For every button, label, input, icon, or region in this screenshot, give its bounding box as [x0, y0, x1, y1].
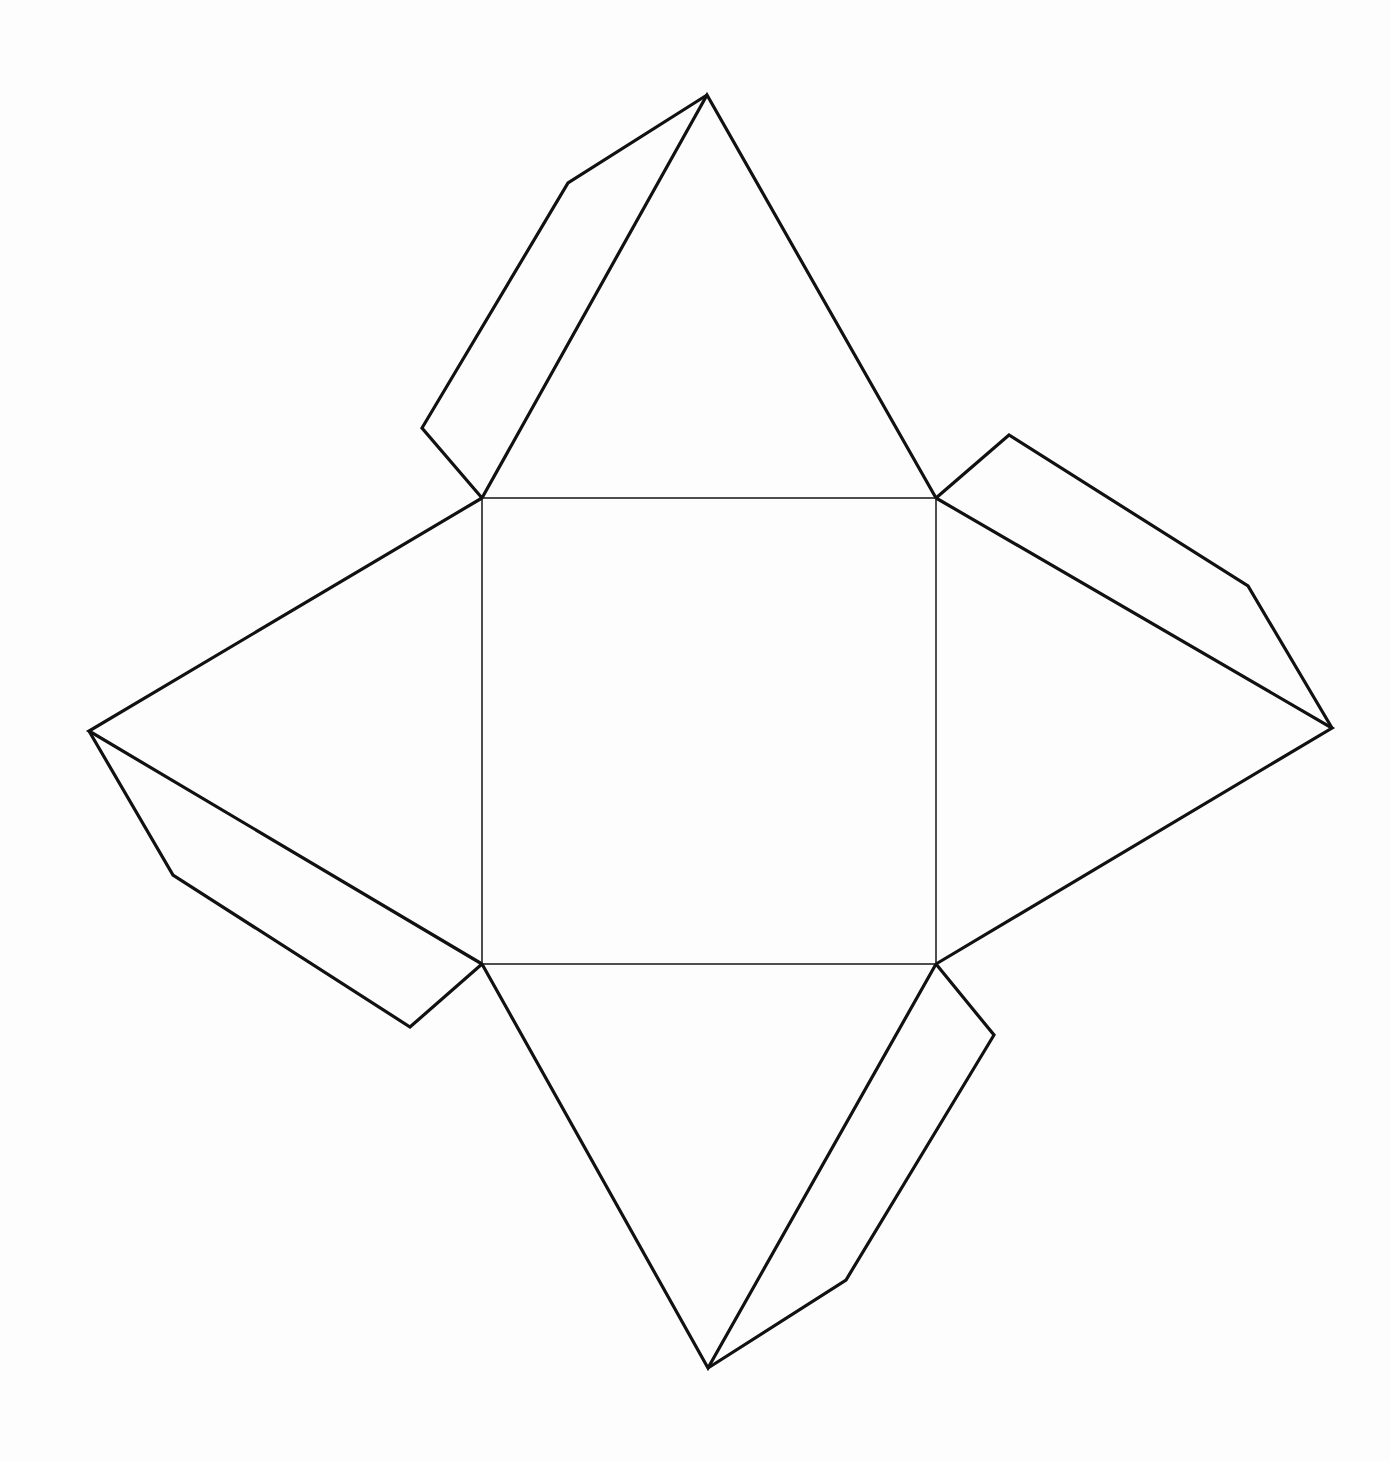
top-glue-tab: [422, 95, 707, 498]
bottom-face: [482, 964, 936, 1368]
right-face: [936, 498, 1332, 964]
right-glue-tab: [936, 435, 1332, 728]
left-glue-tab: [89, 731, 482, 1027]
pyramid-net-canvas: [0, 0, 1390, 1461]
pyramid-net-diagram: [0, 0, 1390, 1461]
base-square: [482, 498, 936, 964]
bottom-glue-tab: [708, 964, 994, 1368]
top-face: [482, 95, 936, 498]
left-face: [89, 498, 482, 964]
